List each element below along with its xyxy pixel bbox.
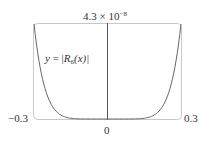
x-max-label: 0.3 (184, 112, 198, 124)
curve-annotation-arg: (x)| (74, 52, 89, 64)
curve-annotation-eq: = | (50, 52, 64, 64)
y-max-exponent: −8 (119, 10, 126, 18)
y-max-label: 4.3 × 10−8 (83, 8, 127, 22)
curve-annotation: y = |R6(x)| (45, 52, 89, 68)
x-min-label: −0.3 (8, 112, 28, 124)
y-max-mantissa: 4.3 × 10 (83, 10, 119, 22)
x-zero-label: 0 (104, 124, 110, 136)
curve-annotation-r: R (64, 52, 71, 64)
chart-figure: 4.3 × 10−8 y = |R6(x)| −0.3 0.3 0 (0, 0, 209, 144)
